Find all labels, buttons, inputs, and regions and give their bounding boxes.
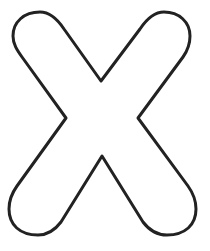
coloring-page-canvas: X bbox=[0, 0, 210, 251]
letter-x-outline-icon bbox=[0, 0, 210, 251]
